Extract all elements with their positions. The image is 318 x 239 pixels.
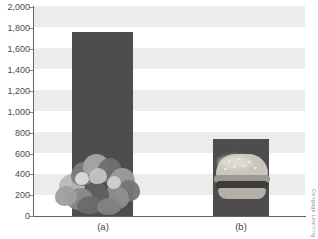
y-tick-label: 600 (0, 150, 30, 159)
y-tick-label: 1,600 (0, 45, 30, 54)
y-tick-label: 400 (0, 170, 30, 179)
y-axis-line (33, 6, 34, 217)
bar-a[interactable] (72, 32, 133, 216)
y-tick-label: 0 (0, 212, 30, 221)
x-tick-label-b: (b) (221, 221, 261, 232)
credit-text: Cengage Learning (311, 189, 317, 237)
bar-b[interactable] (213, 139, 269, 216)
y-tick-label: 1,000 (0, 108, 30, 117)
y-tick-label: 1,200 (0, 87, 30, 96)
chart-figure: 2,000 1,800 1,600 1,400 1,200 1,000 800 … (0, 0, 318, 239)
y-tick-label: 800 (0, 129, 30, 138)
background-band (33, 6, 305, 27)
y-axis-labels: 2,000 1,800 1,600 1,400 1,200 1,000 800 … (0, 0, 30, 239)
y-tick-label: 200 (0, 191, 30, 200)
y-tick-label: 1,800 (0, 24, 30, 33)
y-tick-label: 2,000 (0, 3, 30, 12)
x-axis-line (33, 216, 306, 217)
x-tick-label-a: (a) (83, 221, 123, 232)
y-tick-label: 1,400 (0, 66, 30, 75)
